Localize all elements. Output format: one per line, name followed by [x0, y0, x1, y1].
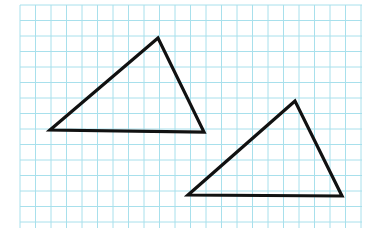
- background: [0, 0, 367, 244]
- graph-paper-diagram: [0, 0, 367, 244]
